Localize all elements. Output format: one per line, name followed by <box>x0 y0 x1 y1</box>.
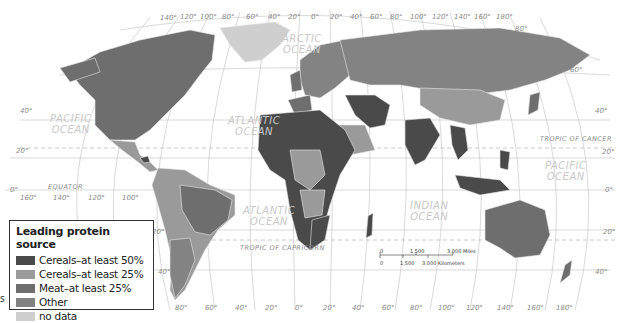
legend-item-cereals-25: Cereals–at least 25% <box>16 267 147 281</box>
lon-label: 40° <box>352 304 364 312</box>
scale-km-1500: 1,500 <box>400 260 414 266</box>
lat-label: 20° <box>603 228 615 236</box>
lat-label: 40° <box>158 268 170 276</box>
lon-label: 80° <box>390 13 402 21</box>
lon-label: 20° <box>330 13 342 21</box>
legend-item-other: Other <box>16 295 147 309</box>
lon-label: 40° <box>268 13 280 21</box>
ocean-label-indian: INDIAN OCEAN <box>410 200 448 222</box>
lon-label: 20° <box>288 13 300 21</box>
lon-label: 60° <box>370 13 382 21</box>
lon-label: 140° <box>497 304 514 312</box>
lon-label: 180° <box>496 13 513 21</box>
ocean-label-arctic: ARCTIC OCEAN <box>282 33 322 55</box>
scale-km-0: 0 <box>380 260 383 266</box>
lat-label: 40° <box>20 107 32 115</box>
lon-label: 60° <box>246 13 258 21</box>
lat-label: 20° <box>16 147 28 155</box>
lon-label: 60° <box>205 304 217 312</box>
legend-item-cereals-50: Cereals–at least 50% <box>16 253 147 267</box>
lon-label: 20° <box>323 304 335 312</box>
lon-label: 100° <box>410 13 427 21</box>
scale-km-3000: 3,000 Kilometers <box>422 260 465 266</box>
lon-label: 160° <box>527 304 544 312</box>
lon-label: 140° <box>160 14 177 22</box>
edge-text-fragment: s <box>0 293 5 304</box>
legend-label: Cereals–at least 50% <box>39 254 143 266</box>
legend-item-meat-25: Meat–at least 25% <box>16 281 147 295</box>
legend-swatch <box>16 298 35 307</box>
lat-label: 80° <box>515 25 527 33</box>
tropic-of-capricorn-label: TROPIC OF CAPRICORN <box>240 244 325 252</box>
scale-miles-3000: 3,000 Miles <box>447 248 476 254</box>
legend-label: Cereals–at least 25% <box>39 268 143 280</box>
lat-label: 0° <box>605 186 613 194</box>
lon-label: 60° <box>382 304 394 312</box>
lon-label: 100° <box>200 13 217 21</box>
legend-swatch <box>16 256 35 265</box>
scale-miles-1500: 1,500 <box>410 248 424 254</box>
lat-label: 40° <box>595 268 607 276</box>
lon-label: 100° <box>438 304 455 312</box>
lon-label: 20° <box>265 304 277 312</box>
legend-label: Other <box>39 296 67 308</box>
ocean-label-pacific-west: PACIFIC OCEAN <box>50 113 92 135</box>
lon-label: 40° <box>350 13 362 21</box>
lat-label: 40° <box>595 107 607 115</box>
lon-label: 120° <box>466 304 483 312</box>
lon-label: 160° <box>474 13 491 21</box>
legend: Leading protein source Cereals–at least … <box>9 220 154 310</box>
legend-item-no-data: no data <box>16 309 147 323</box>
ocean-label-atlantic-south: ATLANTIC OCEAN <box>243 205 295 227</box>
lon-label: 0° <box>311 13 319 21</box>
lon-label: 80° <box>410 304 422 312</box>
legend-swatch <box>16 312 35 321</box>
lon-label: 0° <box>295 304 303 312</box>
lon-label: 80° <box>222 13 234 21</box>
scale-miles-0: 0 <box>380 248 383 254</box>
lat-label: 60° <box>570 66 582 74</box>
legend-swatch <box>16 284 35 293</box>
lat-label: 0° <box>10 186 18 194</box>
lon-label: 120° <box>88 194 105 202</box>
lon-label: 140° <box>53 194 70 202</box>
lon-label: 80° <box>175 304 187 312</box>
lon-label: 160° <box>20 194 37 202</box>
lon-label: 120° <box>180 13 197 21</box>
equator-label: EQUATOR <box>48 183 83 191</box>
ocean-label-pacific-east: PACIFIC OCEAN <box>545 160 587 182</box>
lon-label: 40° <box>235 304 247 312</box>
legend-title: Leading protein source <box>16 225 147 251</box>
lat-label: 20° <box>602 148 614 156</box>
legend-label: Meat–at least 25% <box>39 282 131 294</box>
legend-swatch <box>16 270 35 279</box>
lon-label: 100° <box>122 194 139 202</box>
ocean-label-atlantic-north: ATLANTIC OCEAN <box>228 115 280 137</box>
legend-label: no data <box>39 310 77 322</box>
lon-label: 140° <box>454 13 471 21</box>
tropic-of-cancer-label: TROPIC OF CANCER <box>540 135 612 143</box>
lon-label: 120° <box>432 13 449 21</box>
lon-label: 180° <box>556 304 573 312</box>
